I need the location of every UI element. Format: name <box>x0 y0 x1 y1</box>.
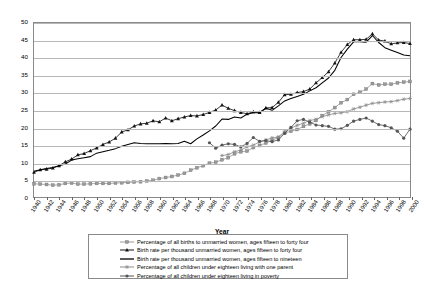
legend-label: Percentage of all children under eightee… <box>137 264 293 270</box>
x-axis-tick-label: 1948 <box>80 199 92 213</box>
grid-line <box>34 164 410 165</box>
x-axis-tick-label: 1976 <box>256 199 268 213</box>
x-axis-tick-label: 1966 <box>193 199 205 213</box>
y-axis-tick-label: 0 <box>25 195 28 201</box>
grid-line <box>34 41 410 42</box>
x-axis: Year 19401942194419461948195019521954195… <box>33 199 411 233</box>
series-4 <box>208 116 412 149</box>
y-axis-tick-label: 40 <box>21 54 28 60</box>
grid-line <box>34 111 410 112</box>
y-axis-tick-label: 25 <box>21 107 28 113</box>
y-axis: 05101520253035404550 <box>0 22 31 198</box>
legend-label: Percentage of all births to unmarried wo… <box>137 239 309 245</box>
x-axis-tick-label: 1960 <box>156 199 168 213</box>
x-axis-tick-label: 1946 <box>67 199 79 213</box>
grid-line <box>34 23 410 24</box>
legend-marker-icon <box>119 255 135 263</box>
y-axis-tick-label: 35 <box>21 72 28 78</box>
x-axis-tick-label: 1954 <box>118 199 130 213</box>
y-axis-tick-label: 45 <box>21 36 28 42</box>
x-axis-tick-label: 1982 <box>294 199 306 213</box>
x-axis-tick-label: 1984 <box>307 199 319 213</box>
x-axis-tick-label: 1956 <box>130 199 142 213</box>
x-axis-tick-label: 1958 <box>143 199 155 213</box>
legend-item-2[interactable]: Birth rate per thousand unmarried women,… <box>89 255 347 263</box>
y-axis-tick-label: 20 <box>21 124 28 130</box>
x-axis-tick-label: 1974 <box>244 199 256 213</box>
legend-item-1[interactable]: Birth rate per thousand unmarried women,… <box>89 246 347 254</box>
plot-area <box>33 22 411 198</box>
grid-line <box>34 58 410 59</box>
y-axis-tick-label: 15 <box>21 142 28 148</box>
legend-label: Birth rate per thousand unmarried women,… <box>137 256 302 262</box>
x-axis-tick-label: 1970 <box>219 199 231 213</box>
y-axis-tick-label: 10 <box>21 160 28 166</box>
grid-line <box>34 93 410 94</box>
legend-marker-icon <box>119 246 135 254</box>
x-axis-tick-label: 1980 <box>282 199 294 213</box>
x-axis-tick-label: 1952 <box>105 199 117 213</box>
x-axis-tick-label: 1988 <box>332 199 344 213</box>
x-axis-tick <box>412 197 413 200</box>
grid-line <box>34 129 410 130</box>
chart-root: 05101520253035404550 Year 19401942194419… <box>0 0 425 294</box>
x-axis-tick-label: 1942 <box>42 199 54 213</box>
grid-line <box>34 181 410 182</box>
legend-item-3[interactable]: Percentage of all children under eightee… <box>89 263 347 271</box>
legend-item-0[interactable]: Percentage of all births to unmarried wo… <box>89 238 347 246</box>
series-3 <box>220 97 412 158</box>
chart-legend: Percentage of all births to unmarried wo… <box>88 234 348 279</box>
x-axis-tick-label: 1964 <box>181 199 193 213</box>
y-axis-tick-label: 50 <box>21 19 28 25</box>
x-axis-tick-label: 2000 <box>408 199 420 213</box>
x-axis-tick-label: 1978 <box>269 199 281 213</box>
legend-marker-icon <box>119 272 135 280</box>
y-axis-tick-label: 30 <box>21 89 28 95</box>
x-axis-tick-label: 1940 <box>30 199 42 213</box>
grid-line <box>34 76 410 77</box>
x-axis-tick-label: 1990 <box>345 199 357 213</box>
legend-marker-icon <box>119 263 135 271</box>
x-axis-tick-label: 1992 <box>357 199 369 213</box>
grid-line <box>34 146 410 147</box>
x-axis-tick-label: 1950 <box>93 199 105 213</box>
legend-label: Birth rate per thousand unmarried women,… <box>137 247 302 253</box>
series-0 <box>33 80 412 187</box>
x-axis-tick-label: 1962 <box>168 199 180 213</box>
legend-label: Percentage of all children under eightee… <box>137 273 279 279</box>
x-axis-tick-label: 1996 <box>382 199 394 213</box>
x-axis-tick-label: 1972 <box>231 199 243 213</box>
legend-marker-icon <box>119 238 135 246</box>
series-1 <box>32 32 412 174</box>
x-axis-tick-label: 1986 <box>319 199 331 213</box>
series-layer <box>34 23 410 197</box>
x-axis-tick-label: 1944 <box>55 199 67 213</box>
x-axis-tick-label: 1968 <box>206 199 218 213</box>
legend-item-4[interactable]: Percentage of all children under eightee… <box>89 272 347 280</box>
x-axis-tick-label: 1994 <box>370 199 382 213</box>
y-axis-tick-label: 5 <box>25 177 28 183</box>
x-axis-tick-label: 1998 <box>395 199 407 213</box>
